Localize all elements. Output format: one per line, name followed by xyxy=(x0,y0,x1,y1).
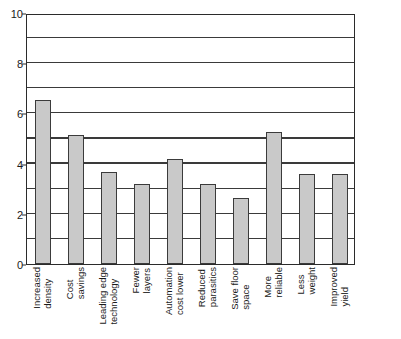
x-axis: IncreaseddensityCostsavingsLeading edget… xyxy=(26,267,355,339)
bar[interactable] xyxy=(299,174,315,264)
x-axis-label: Leading edgetechnology xyxy=(98,267,119,325)
bar-slot xyxy=(93,15,126,264)
x-axis-label-slot: Automationcost lower xyxy=(158,267,191,339)
bar[interactable] xyxy=(101,172,117,264)
x-axis-label-line: technology xyxy=(109,267,120,325)
bar[interactable] xyxy=(233,198,249,265)
x-axis-label-slot: Leading edgetechnology xyxy=(92,267,125,339)
x-axis-label-line: cost lower xyxy=(175,267,186,315)
x-axis-label-line: Improved xyxy=(329,267,340,307)
bar-slot xyxy=(290,15,323,264)
bar-slot xyxy=(323,15,356,264)
bar-slot xyxy=(27,15,60,264)
x-axis-label-slot: Save floorspace xyxy=(223,267,256,339)
x-axis-label-line: yield xyxy=(339,267,350,307)
x-axis-label: Reducedparasitics xyxy=(197,267,218,307)
bar[interactable] xyxy=(332,174,348,264)
bar[interactable] xyxy=(266,132,282,264)
x-axis-label: Increaseddensity xyxy=(32,267,53,309)
x-axis-label: Improvedyield xyxy=(329,267,350,307)
x-axis-label-line: More xyxy=(263,267,274,298)
x-axis-label-line: Automation xyxy=(164,267,175,315)
bars-layer xyxy=(27,15,354,264)
x-axis-label: Fewerlayers xyxy=(131,267,152,293)
x-axis-label-slot: Lessweight xyxy=(289,267,322,339)
x-axis-label-slot: Costsavings xyxy=(59,267,92,339)
bar-slot xyxy=(159,15,192,264)
bar-slot xyxy=(192,15,225,264)
x-axis-label: Save floorspace xyxy=(230,267,251,310)
x-axis-label: Lessweight xyxy=(296,267,317,294)
plot-area xyxy=(26,14,355,265)
x-axis-label-line: density xyxy=(43,267,54,309)
x-axis-label-slot: Fewerlayers xyxy=(125,267,158,339)
x-axis-label-line: Less xyxy=(296,267,307,294)
x-axis-label-line: layers xyxy=(142,267,153,293)
bar-slot xyxy=(60,15,93,264)
x-axis-label-slot: Reducedparasitics xyxy=(191,267,224,339)
x-axis-label-line: weight xyxy=(306,267,317,294)
bar-slot xyxy=(224,15,257,264)
x-axis-label-line: reliable xyxy=(273,267,284,298)
bar-slot xyxy=(126,15,159,264)
x-axis-label-line: Save floor xyxy=(230,267,241,310)
x-axis-label-line: savings xyxy=(76,267,87,299)
x-axis-label-slot: Morereliable xyxy=(256,267,289,339)
x-axis-label: Automationcost lower xyxy=(164,267,185,315)
x-axis-label-slot: Improvedyield xyxy=(322,267,355,339)
y-axis: 0246810 xyxy=(0,0,26,339)
bar[interactable] xyxy=(35,100,51,264)
x-axis-label-slot: Increaseddensity xyxy=(26,267,59,339)
bar[interactable] xyxy=(167,159,183,264)
bar[interactable] xyxy=(200,184,216,264)
x-axis-label: Morereliable xyxy=(263,267,284,298)
x-axis-label: Costsavings xyxy=(65,267,86,299)
x-axis-label-line: Reduced xyxy=(197,267,208,307)
bar[interactable] xyxy=(134,184,150,264)
x-axis-label-line: parasitics xyxy=(207,267,218,307)
bar-chart: 0246810 IncreaseddensityCostsavingsLeadi… xyxy=(0,0,401,339)
x-axis-label-line: space xyxy=(240,267,251,310)
bar[interactable] xyxy=(68,135,84,264)
bar-slot xyxy=(257,15,290,264)
